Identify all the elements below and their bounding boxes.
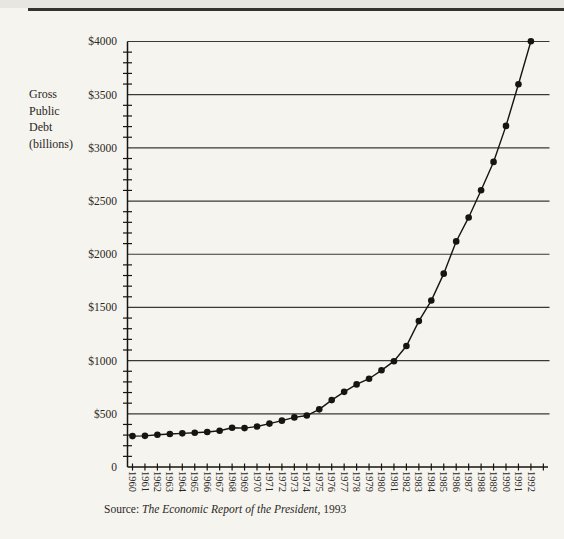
y-tick-label: $4000 <box>88 35 117 47</box>
data-point <box>428 297 435 304</box>
data-point <box>279 417 286 424</box>
debt-line-chart: 0$500$1000$1500$2000$2500$3000$3500$4000… <box>0 0 564 539</box>
y-tick-label: $3000 <box>88 142 117 154</box>
data-point <box>478 187 485 194</box>
data-point <box>304 412 311 419</box>
data-point <box>129 433 136 440</box>
x-tick-label: 1967 <box>214 471 225 492</box>
x-tick-label: 1964 <box>177 471 188 493</box>
x-tick-label: 1971 <box>264 471 275 492</box>
x-tick-label: 1989 <box>488 471 499 492</box>
data-point <box>167 431 174 438</box>
debt-line <box>133 41 531 436</box>
data-point <box>341 389 348 396</box>
data-point <box>378 367 385 374</box>
data-point <box>316 406 323 413</box>
data-point <box>191 429 198 436</box>
x-tick-label: 1976 <box>326 471 337 492</box>
x-tick-label: 1977 <box>339 471 350 492</box>
data-point <box>503 123 510 130</box>
y-tick-label: $2500 <box>88 195 117 207</box>
y-tick-label: $500 <box>94 408 117 420</box>
data-point <box>440 270 447 277</box>
data-point <box>254 423 261 430</box>
data-point <box>366 375 373 382</box>
data-point <box>216 427 223 434</box>
x-tick-label: 1969 <box>239 471 250 492</box>
x-tick-label: 1984 <box>426 471 437 493</box>
source-label: Source: <box>104 503 142 515</box>
data-point <box>266 420 273 427</box>
x-tick-label: 1968 <box>227 471 238 492</box>
x-tick-label: 1982 <box>401 471 412 492</box>
data-point <box>353 381 360 388</box>
x-tick-label: 1985 <box>438 471 449 492</box>
x-tick-label: 1990 <box>501 471 512 492</box>
data-point <box>453 238 460 245</box>
data-point <box>528 38 535 45</box>
x-tick-label: 1986 <box>451 471 462 492</box>
data-point <box>142 433 149 440</box>
data-point <box>515 81 522 88</box>
data-point <box>204 429 211 436</box>
x-tick-label: 1974 <box>301 471 312 493</box>
x-tick-label: 1960 <box>127 471 138 492</box>
x-tick-label: 1979 <box>364 471 375 492</box>
y-tick-label: $2000 <box>88 248 117 260</box>
x-tick-label: 1966 <box>202 471 213 492</box>
data-point <box>291 414 298 421</box>
x-tick-label: 1973 <box>289 471 300 492</box>
x-tick-label: 1981 <box>389 471 400 492</box>
data-point <box>328 397 335 404</box>
source-year: 1993 <box>320 503 346 515</box>
y-tick-label: 0 <box>111 461 117 473</box>
x-tick-label: 1975 <box>314 471 325 492</box>
x-tick-label: 1988 <box>476 471 487 492</box>
x-tick-label: 1987 <box>463 471 474 492</box>
data-point <box>229 424 236 431</box>
page: Gross Public Debt (billions) 0$500$1000$… <box>0 0 564 539</box>
data-point <box>154 431 161 438</box>
data-point <box>490 159 497 166</box>
data-point <box>403 343 410 350</box>
x-tick-label: 1992 <box>526 471 537 492</box>
source-title: The Economic Report of the President, <box>142 503 320 515</box>
x-tick-label: 1970 <box>252 471 263 492</box>
x-tick-label: 1980 <box>376 471 387 492</box>
x-tick-label: 1965 <box>189 471 200 492</box>
x-tick-label: 1978 <box>351 471 362 492</box>
x-tick-label: 1983 <box>413 471 424 492</box>
y-tick-label: $1500 <box>88 301 117 313</box>
data-point <box>241 425 248 432</box>
y-tick-label: $1000 <box>88 355 117 367</box>
x-tick-label: 1991 <box>513 471 524 492</box>
x-tick-label: 1963 <box>164 471 175 492</box>
data-point <box>391 358 398 365</box>
x-tick-label: 1972 <box>277 471 288 492</box>
y-tick-label: $3500 <box>88 89 117 101</box>
source-line: Source: The Economic Report of the Presi… <box>104 503 346 515</box>
data-point <box>179 430 186 437</box>
data-point <box>465 214 472 221</box>
x-tick-label: 1962 <box>152 471 163 492</box>
data-point <box>416 318 423 325</box>
x-tick-label: 1961 <box>140 471 151 492</box>
